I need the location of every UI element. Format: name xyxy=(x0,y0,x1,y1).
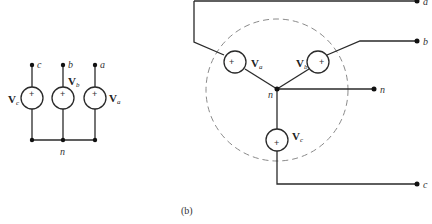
svg-text:a: a xyxy=(117,98,121,106)
terminal-a-dot xyxy=(93,63,97,67)
center-node-dot xyxy=(275,87,280,92)
svg-text:+: + xyxy=(60,89,65,99)
label-c-right: c xyxy=(423,179,428,190)
svg-text:+: + xyxy=(92,89,97,99)
label-vc-right: V xyxy=(292,130,300,142)
svg-text:c: c xyxy=(16,99,20,107)
svg-text:b: b xyxy=(304,63,308,71)
label-n-center: n xyxy=(268,89,273,100)
terminal-n-dot-right xyxy=(372,87,377,92)
svg-text:+: + xyxy=(274,138,279,148)
figure-caption: (b) xyxy=(181,205,193,217)
label-va-right: V xyxy=(251,57,259,69)
left-wye-circuit: + + + c b a V c V b V a n xyxy=(8,59,121,157)
terminal-b-dot xyxy=(61,63,65,67)
circuit-diagram: + + + c b a V c V b V a n + + + xyxy=(0,0,432,224)
label-vb-right: V xyxy=(296,57,304,69)
label-b: b xyxy=(68,59,73,70)
svg-text:+: + xyxy=(29,89,34,99)
label-vb: V xyxy=(68,75,76,87)
terminal-a-dot-right xyxy=(415,0,420,4)
svg-text:+: + xyxy=(319,57,324,67)
svg-text:c: c xyxy=(300,136,304,144)
terminal-c-dot xyxy=(30,63,34,67)
svg-text:a: a xyxy=(259,63,263,71)
label-vc: V xyxy=(8,93,16,105)
terminal-b-dot-right xyxy=(415,39,420,44)
label-n-terminal-right: n xyxy=(380,84,385,95)
source-vb-right xyxy=(307,51,329,73)
right-wye-circuit: + + + a b n c n V a V b V c xyxy=(194,0,428,190)
terminal-c-dot-right xyxy=(415,182,420,187)
label-c: c xyxy=(37,59,42,70)
svg-text:b: b xyxy=(76,81,80,89)
label-n: n xyxy=(60,146,65,157)
label-a-right: a xyxy=(423,0,428,7)
source-va-right xyxy=(224,51,246,73)
label-b-right: b xyxy=(423,36,428,47)
label-a: a xyxy=(100,59,105,70)
svg-text:+: + xyxy=(229,57,234,67)
label-va: V xyxy=(109,92,117,104)
